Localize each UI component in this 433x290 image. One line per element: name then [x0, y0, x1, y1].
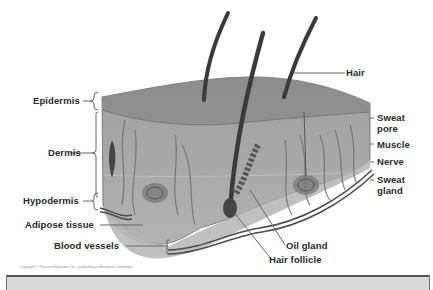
label-sweat-gland-line2: gland: [377, 186, 403, 196]
label-sweat-pore-line1: Sweat: [377, 113, 405, 123]
label-hypodermis: Hypodermis: [23, 196, 79, 206]
hair-follicle-shape: [223, 198, 237, 218]
label-muscle: Muscle: [377, 140, 410, 150]
sweat-gland-left: [142, 183, 168, 203]
label-oil-gland: Oil gland: [286, 241, 328, 251]
label-nerve: Nerve: [377, 157, 404, 167]
label-hair: Hair: [346, 68, 365, 78]
label-epidermis: Epidermis: [33, 96, 80, 106]
bottom-bar: [6, 275, 430, 290]
skin-diagram: Epidermis Dermis Hypodermis Adipose tiss…: [0, 0, 433, 290]
label-sweat-pore-line2: pore: [377, 124, 398, 134]
label-hair-follicle: Hair follicle: [269, 255, 322, 265]
label-sweat-gland-line1: Sweat: [377, 175, 405, 185]
label-blood-vessels: Blood vessels: [54, 241, 119, 251]
copyright-caption: Copyright © Pearson Education, Inc., pub…: [20, 265, 132, 269]
label-dermis: Dermis: [48, 148, 81, 158]
label-adipose-tissue: Adipose tissue: [25, 220, 94, 230]
